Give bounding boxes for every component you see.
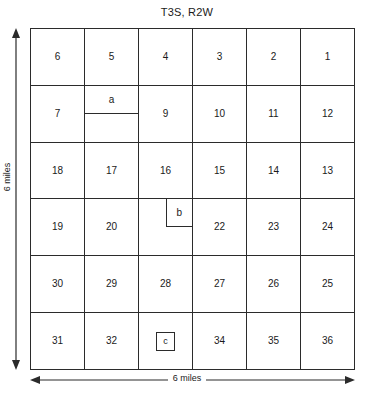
section-cell: 32 bbox=[85, 313, 139, 370]
section-number: 23 bbox=[268, 222, 279, 232]
section-cell: 12 bbox=[301, 86, 355, 143]
section-cell: a bbox=[85, 86, 139, 143]
section-cell: 26 bbox=[247, 256, 301, 313]
section-number: 25 bbox=[322, 279, 333, 289]
section-cell: 34 bbox=[193, 313, 247, 370]
section-cell: 10 bbox=[193, 86, 247, 143]
section-number: 6 bbox=[55, 52, 61, 62]
section-number: 14 bbox=[268, 166, 279, 176]
section-number: 1 bbox=[325, 52, 331, 62]
section-cell: 35 bbox=[247, 313, 301, 370]
section-cell: 3 bbox=[193, 29, 247, 86]
section-cell: 31 bbox=[31, 313, 85, 370]
section-number: 29 bbox=[106, 279, 117, 289]
section-cell: 9 bbox=[139, 86, 193, 143]
section-number: 27 bbox=[214, 279, 225, 289]
subdivision-north-half: a bbox=[85, 86, 138, 114]
section-cell: 17 bbox=[85, 143, 139, 200]
section-number: 16 bbox=[160, 166, 171, 176]
section-cell: 13 bbox=[301, 143, 355, 200]
section-cell: 15 bbox=[193, 143, 247, 200]
section-number: 9 bbox=[163, 109, 169, 119]
section-cell: b bbox=[139, 199, 193, 256]
subdivision-label: a bbox=[109, 94, 115, 105]
section-number: 32 bbox=[106, 336, 117, 346]
section-number: 5 bbox=[109, 52, 115, 62]
section-number: 36 bbox=[322, 336, 333, 346]
horizontal-dimension-label: 6 miles bbox=[0, 373, 374, 383]
subdivision-northeast-quarter: b bbox=[166, 199, 193, 227]
section-number: 10 bbox=[214, 109, 225, 119]
section-number: 31 bbox=[52, 336, 63, 346]
section-number: 17 bbox=[106, 166, 117, 176]
section-number: 22 bbox=[214, 222, 225, 232]
section-cell: 36 bbox=[301, 313, 355, 370]
section-cell: 1 bbox=[301, 29, 355, 86]
section-cell: 18 bbox=[31, 143, 85, 200]
section-cell: 29 bbox=[85, 256, 139, 313]
section-number: 13 bbox=[322, 166, 333, 176]
section-number: 4 bbox=[163, 52, 169, 62]
section-cell: 11 bbox=[247, 86, 301, 143]
section-cell: 24 bbox=[301, 199, 355, 256]
section-cell: 20 bbox=[85, 199, 139, 256]
vertical-dimension-label: 6 miles bbox=[1, 147, 13, 207]
section-number: 34 bbox=[214, 336, 225, 346]
section-cell: 27 bbox=[193, 256, 247, 313]
section-number: 20 bbox=[106, 222, 117, 232]
section-cell: 23 bbox=[247, 199, 301, 256]
section-cell: 2 bbox=[247, 29, 301, 86]
township-section-grid: 6543217a91011121817161514131920b22232430… bbox=[30, 28, 355, 370]
horizontal-dimension-label-text: 6 miles bbox=[168, 373, 207, 383]
subdivision-label: c bbox=[163, 336, 168, 346]
section-number: 3 bbox=[217, 52, 223, 62]
section-cell: 14 bbox=[247, 143, 301, 200]
section-number: 19 bbox=[52, 222, 63, 232]
section-cell: 6 bbox=[31, 29, 85, 86]
section-cell: 16 bbox=[139, 143, 193, 200]
section-number: 15 bbox=[214, 166, 225, 176]
section-cell: 5 bbox=[85, 29, 139, 86]
section-cell: 25 bbox=[301, 256, 355, 313]
section-number: 12 bbox=[322, 109, 333, 119]
section-number: 24 bbox=[322, 222, 333, 232]
section-cell: 19 bbox=[31, 199, 85, 256]
section-number: 11 bbox=[268, 109, 278, 119]
section-cell: 4 bbox=[139, 29, 193, 86]
section-number: 18 bbox=[52, 166, 63, 176]
section-number: 2 bbox=[271, 52, 277, 62]
subdivision-label: b bbox=[176, 207, 182, 218]
section-number: 28 bbox=[160, 279, 171, 289]
subdivision-small-parcel: c bbox=[156, 332, 175, 351]
section-cell: c bbox=[139, 313, 193, 370]
section-number: 35 bbox=[268, 336, 279, 346]
township-grid-container: 6543217a91011121817161514131920b22232430… bbox=[30, 28, 355, 370]
section-cell: 22 bbox=[193, 199, 247, 256]
section-cell: 28 bbox=[139, 256, 193, 313]
section-cell: 30 bbox=[31, 256, 85, 313]
diagram-title: T3S, R2W bbox=[0, 6, 374, 18]
section-number: 26 bbox=[268, 279, 279, 289]
section-number: 7 bbox=[55, 109, 61, 119]
section-cell: 7 bbox=[31, 86, 85, 143]
section-number: 30 bbox=[52, 279, 63, 289]
